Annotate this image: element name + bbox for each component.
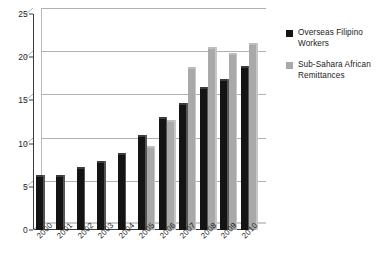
bar xyxy=(188,69,195,230)
y-axis-tick-label: 10 xyxy=(18,139,28,149)
bar xyxy=(179,105,186,230)
bar-group xyxy=(53,14,73,230)
legend-label: Overseas Filipino Workers xyxy=(298,28,380,49)
bar xyxy=(56,177,63,230)
bar xyxy=(220,81,227,230)
y-axis-tick-label: 25 xyxy=(18,9,28,19)
bar xyxy=(77,169,84,230)
legend-item: Overseas Filipino Workers xyxy=(286,28,380,49)
plot-area: 0510152025 xyxy=(33,14,258,230)
bar-group xyxy=(74,14,94,230)
bar-group xyxy=(197,14,217,230)
chart-legend: Overseas Filipino Workers Sub-Sahara Afr… xyxy=(286,28,380,92)
bar xyxy=(118,155,125,230)
legend-swatch-icon xyxy=(286,30,293,37)
bar xyxy=(138,137,145,230)
bar-group xyxy=(238,14,258,230)
bar xyxy=(249,45,256,230)
gridline xyxy=(41,8,266,9)
y-axis-tick-label: 0 xyxy=(23,225,28,235)
bar-chart: 0510152025 20002001200220032004200520062… xyxy=(0,0,382,275)
legend-item: Sub-Sahara African Remittances xyxy=(286,60,380,81)
legend-label: Sub-Sahara African Remittances xyxy=(298,60,380,81)
legend-swatch-icon xyxy=(286,62,293,69)
bars-layer xyxy=(33,14,258,230)
y-axis-tick-label: 20 xyxy=(18,52,28,62)
bar xyxy=(208,49,215,230)
bar-group xyxy=(176,14,196,230)
bar xyxy=(241,68,248,230)
bar-group xyxy=(115,14,135,230)
bar-group xyxy=(217,14,237,230)
bar-group xyxy=(156,14,176,230)
bar xyxy=(147,148,154,230)
bar-group xyxy=(94,14,114,230)
bar xyxy=(97,163,104,230)
bar-group xyxy=(33,14,53,230)
y-axis-tick-label: 5 xyxy=(23,182,28,192)
bar-group xyxy=(135,14,155,230)
y-axis-tick-label: 15 xyxy=(18,95,28,105)
bar xyxy=(200,89,207,230)
bar xyxy=(159,119,166,230)
bar xyxy=(229,55,236,230)
bar xyxy=(36,177,43,230)
bar xyxy=(167,122,174,230)
